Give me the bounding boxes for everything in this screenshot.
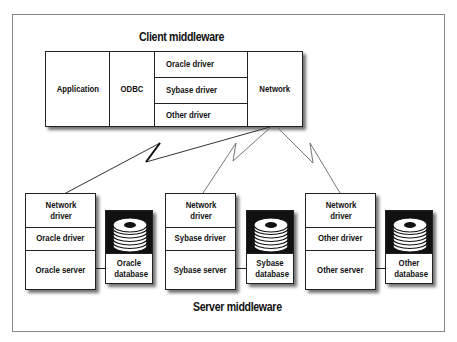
disk-stack-icon bbox=[110, 214, 150, 254]
server-label: Oracle server bbox=[36, 265, 86, 276]
server-middleware-title: Server middleware bbox=[193, 300, 282, 314]
network-driver-cell: Network driver bbox=[166, 194, 235, 227]
server-stack-sybase: Network driver Sybase driver Sybase serv… bbox=[165, 193, 236, 290]
network-driver-cell: Network driver bbox=[26, 194, 95, 227]
database-label-cell: Oracle database bbox=[106, 253, 152, 283]
network-driver-label: Network driver bbox=[44, 200, 77, 222]
lightning-link-icon bbox=[0, 0, 457, 342]
server-cell: Oracle server bbox=[26, 250, 95, 290]
server-cell: Other server bbox=[306, 250, 375, 290]
database-label-cell: Other database bbox=[386, 253, 432, 283]
driver-label: Oracle driver bbox=[36, 233, 84, 244]
server-stack-oracle: Network driver Oracle driver Oracle serv… bbox=[25, 193, 96, 290]
server-stack-other: Network driver Other driver Other server bbox=[305, 193, 376, 290]
database-other: Other database bbox=[385, 210, 433, 284]
database-oracle: Oracle database bbox=[105, 210, 153, 284]
database-label: Other database bbox=[394, 258, 424, 280]
network-driver-cell: Network driver bbox=[306, 194, 375, 227]
database-label: Oracle database bbox=[114, 258, 144, 280]
database-sybase: Sybase database bbox=[246, 210, 294, 284]
connector-line bbox=[236, 268, 246, 269]
network-driver-label: Network driver bbox=[184, 200, 217, 222]
driver-cell: Oracle driver bbox=[26, 227, 95, 250]
server-label: Other server bbox=[317, 265, 363, 276]
driver-cell: Sybase driver bbox=[166, 227, 235, 250]
disk-stack-icon bbox=[390, 214, 430, 254]
driver-label: Other driver bbox=[318, 233, 363, 244]
network-driver-label: Network driver bbox=[324, 200, 357, 222]
driver-cell: Other driver bbox=[306, 227, 375, 250]
disk-stack-icon bbox=[251, 214, 291, 254]
server-label: Sybase server bbox=[174, 265, 227, 276]
database-label-cell: Sybase database bbox=[247, 253, 293, 283]
driver-label: Sybase driver bbox=[175, 233, 226, 244]
server-cell: Sybase server bbox=[166, 250, 235, 290]
database-label: Sybase database bbox=[255, 258, 285, 280]
